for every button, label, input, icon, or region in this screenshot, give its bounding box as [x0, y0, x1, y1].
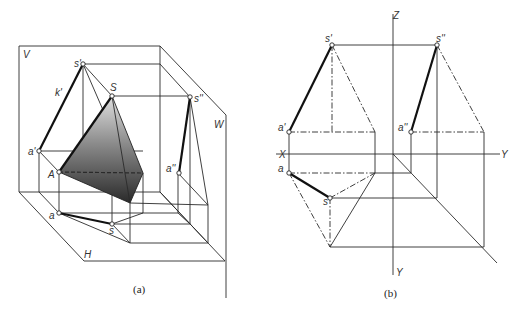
- caption-a: (a): [133, 283, 146, 296]
- label-s-double-prime: s'': [194, 93, 204, 104]
- figure-b-orthographic: Z X Y Y s' s'' a' a'' a s (b): [276, 10, 509, 300]
- hidden-edge: [332, 45, 375, 132]
- hidden-edge: [330, 173, 375, 198]
- edge-s-dprime-a-dprime: [411, 45, 437, 132]
- label-H: H: [84, 249, 92, 260]
- hidden-edge: [437, 45, 484, 132]
- label-s: s: [323, 196, 328, 207]
- point-a-double-prime: [409, 130, 413, 134]
- label-s-prime: s': [74, 58, 82, 69]
- label-Y-right: Y: [501, 149, 509, 160]
- point-s: [328, 196, 332, 200]
- projection-diagram: V W H s' S s'' k' a' A a'' a s (a): [0, 0, 521, 312]
- projector-line: [112, 224, 130, 243]
- label-A: A: [47, 169, 55, 180]
- figure-a-axonometric: V W H s' S s'' k' a' A a'' a s (a): [19, 46, 226, 298]
- projector-line: [160, 192, 208, 243]
- label-Z: Z: [392, 10, 400, 21]
- label-X: X: [278, 149, 286, 160]
- point-a: [287, 171, 291, 175]
- label-s-double-prime: s'': [436, 33, 446, 44]
- projector-line: [59, 213, 130, 243]
- caption-b: (b): [384, 287, 397, 300]
- point-s-double-prime: [188, 95, 192, 99]
- projector-line: [112, 213, 143, 224]
- point-A: [57, 170, 61, 174]
- hidden-edge: [289, 173, 330, 247]
- edge-s-prime-a-prime: [39, 64, 83, 151]
- label-s-prime: s': [325, 33, 333, 44]
- point-a-prime: [287, 130, 291, 134]
- point-a-double-prime: [177, 171, 181, 175]
- h-plane-frame: [19, 192, 225, 261]
- label-a-double-prime: a'': [398, 122, 408, 133]
- projector-line: [83, 64, 112, 96]
- label-a: a: [278, 163, 284, 174]
- label-W: W: [214, 119, 225, 130]
- visible-edge: [330, 173, 375, 247]
- label-k-prime: k': [55, 87, 63, 98]
- label-a-prime: a': [278, 122, 287, 133]
- label-a: a: [49, 210, 55, 221]
- point-a-prime: [37, 149, 41, 153]
- label-V: V: [23, 49, 31, 60]
- projector-line: [130, 203, 208, 205]
- edge-s-a: [289, 173, 330, 198]
- point-s-prime: [81, 62, 85, 66]
- label-a-double-prime: a'': [166, 163, 176, 174]
- label-s: s: [109, 225, 114, 236]
- label-a-prime: a': [28, 146, 37, 157]
- label-S: S: [110, 82, 117, 93]
- point-a: [57, 211, 61, 215]
- projector-line: [83, 64, 103, 110]
- edge-s-prime-a-prime: [289, 45, 332, 132]
- edge-s-dprime-a-dprime: [179, 97, 190, 173]
- point-S: [110, 94, 114, 98]
- projector-line: [160, 64, 190, 97]
- edge-s-a: [59, 213, 112, 224]
- label-Y-down: Y: [396, 267, 404, 278]
